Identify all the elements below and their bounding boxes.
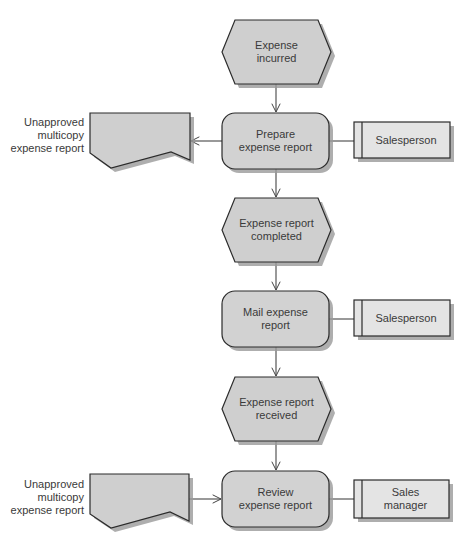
- event-expense-incurred-label: Expense incurred: [222, 39, 331, 65]
- label-line: received: [222, 409, 331, 422]
- label-line: completed: [222, 230, 331, 243]
- label-line: Sales: [362, 486, 449, 499]
- label-line: multicopy: [0, 129, 84, 142]
- label-line: Unapproved: [0, 116, 84, 129]
- event-received-label: Expense report received: [222, 396, 331, 422]
- function-review-label: Review expense report: [222, 486, 329, 512]
- label-line: Expense: [222, 39, 331, 52]
- document-unapproved-report-1: [90, 113, 194, 172]
- label-line: expense report: [0, 142, 84, 155]
- label-line: incurred: [222, 52, 331, 65]
- label-line: Salesperson: [362, 312, 450, 325]
- function-mail-label: Mail expense report: [222, 306, 329, 332]
- role-sales-manager-label: Sales manager: [362, 486, 449, 512]
- label-line: multicopy: [0, 491, 84, 504]
- label-line: expense report: [0, 504, 84, 517]
- role-salesperson-1-label: Salesperson: [362, 134, 450, 147]
- label-line: manager: [362, 499, 449, 512]
- document-2-label: Unapproved multicopy expense report: [0, 478, 84, 517]
- label-line: Review: [222, 486, 329, 499]
- label-line: Prepare: [222, 128, 329, 141]
- label-line: report: [222, 319, 329, 332]
- label-line: Mail expense: [222, 306, 329, 319]
- process-diagram: [0, 0, 470, 544]
- function-prepare-label: Prepare expense report: [222, 128, 329, 154]
- label-line: Expense report: [222, 217, 331, 230]
- document-unapproved-report-2: [90, 474, 193, 532]
- label-line: Salesperson: [362, 134, 450, 147]
- label-line: expense report: [222, 141, 329, 154]
- role-salesperson-2-label: Salesperson: [362, 312, 450, 325]
- label-line: expense report: [222, 499, 329, 512]
- document-1-label: Unapproved multicopy expense report: [0, 116, 84, 155]
- event-completed-label: Expense report completed: [222, 217, 331, 243]
- label-line: Expense report: [222, 396, 331, 409]
- label-line: Unapproved: [0, 478, 84, 491]
